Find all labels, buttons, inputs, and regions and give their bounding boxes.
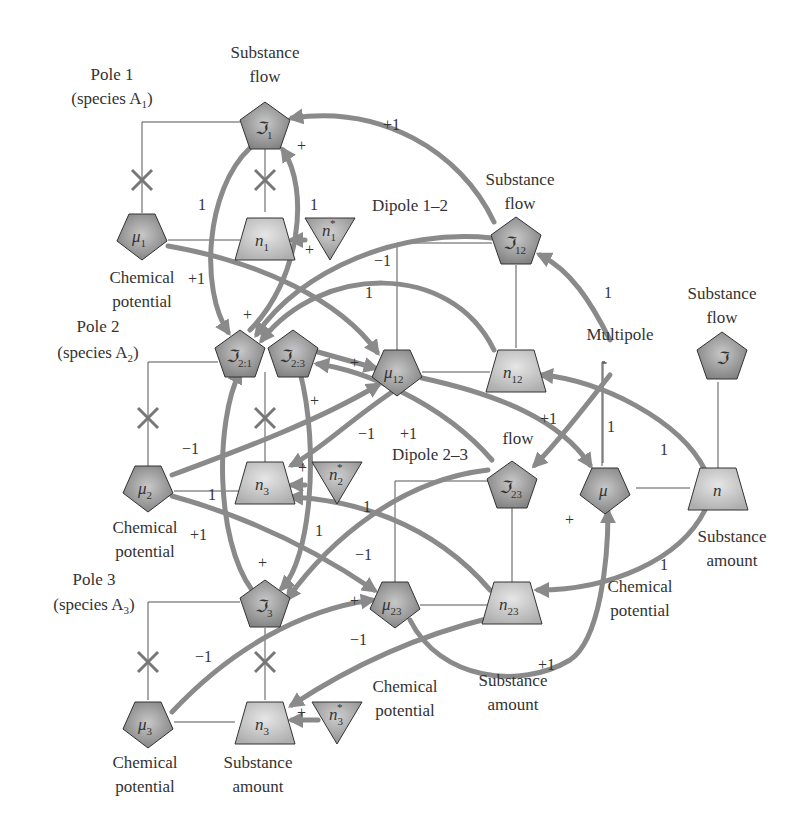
node-mu2-chemical-potential-pentagon: μ2	[123, 466, 173, 512]
node-n1-substance-amount-trapezoid: n1	[235, 218, 295, 260]
svg-text:flow: flow	[502, 429, 534, 448]
svg-text:+: +	[298, 459, 307, 476]
svg-text:−1: −1	[355, 546, 372, 563]
node-J12-substance-flow-pentagon: ℑ12	[491, 217, 541, 264]
svg-text:1: 1	[660, 441, 668, 458]
svg-text:+1: +1	[383, 116, 400, 133]
svg-text:+: +	[350, 592, 359, 609]
svg-text:Substance: Substance	[688, 284, 757, 303]
node-mu3-chemical-potential-pentagon: μ3	[123, 702, 173, 748]
svg-text:flow: flow	[249, 67, 281, 86]
svg-text:Chemical: Chemical	[109, 268, 174, 287]
node-mu12-chemical-potential-pentagon: μ12	[372, 350, 422, 396]
svg-text:potential: potential	[610, 601, 670, 620]
svg-text:amount: amount	[707, 551, 758, 570]
svg-text:Chemical: Chemical	[607, 577, 672, 596]
svg-text:amount: amount	[233, 777, 284, 796]
svg-text:+: +	[297, 704, 306, 721]
node-J23a-substance-flow-pentagon: ℑ2:3	[268, 330, 318, 377]
svg-text:+: +	[565, 511, 574, 528]
svg-text:+1: +1	[190, 526, 207, 543]
label-pole1: Pole 1	[91, 65, 134, 84]
network-diagram: ℑ1 μ1 n1 n1* ℑ12 μ12 n12	[0, 0, 810, 834]
node-mu-multipole-chemical-potential-pentagon: μ	[580, 468, 630, 514]
svg-text:potential: potential	[115, 542, 175, 561]
svg-text:1: 1	[198, 196, 206, 213]
label-pole2: Pole 2	[77, 317, 120, 336]
svg-text:−1: −1	[374, 252, 391, 269]
node-n12-substance-amount-trapezoid: n12	[486, 350, 546, 392]
svg-text:1: 1	[365, 284, 373, 301]
label-multipole: Multipole	[586, 325, 653, 344]
svg-text:Chemical: Chemical	[112, 518, 177, 537]
svg-text:−1: −1	[182, 440, 199, 457]
svg-text:Substance: Substance	[231, 43, 300, 62]
svg-text:Chemical: Chemical	[112, 753, 177, 772]
svg-text:Chemical: Chemical	[372, 677, 437, 696]
svg-text:+: +	[243, 306, 252, 323]
svg-text:+: +	[297, 137, 306, 154]
svg-text:+: +	[305, 241, 314, 258]
label-pole1-species: (species A1)	[71, 89, 153, 110]
svg-text:1: 1	[208, 486, 216, 503]
node-mu1-chemical-potential-pentagon: μ1	[117, 214, 167, 260]
svg-text:−1: −1	[358, 425, 375, 442]
svg-text:+: +	[310, 392, 319, 409]
svg-text:amount: amount	[488, 695, 539, 714]
svg-text:1: 1	[604, 284, 612, 301]
node-n3star-triangle: n3*	[312, 701, 362, 744]
svg-text:potential: potential	[115, 777, 175, 796]
svg-text:−1: −1	[195, 648, 212, 665]
svg-text:n: n	[713, 481, 722, 500]
svg-text:+1: +1	[538, 656, 555, 673]
svg-text:Substance: Substance	[479, 671, 548, 690]
svg-text:1: 1	[363, 498, 371, 515]
svg-text:potential: potential	[375, 701, 435, 720]
svg-text:+: +	[258, 554, 267, 571]
label-pole2-species: (species A2)	[57, 343, 139, 364]
node-J-multipole-substance-flow-pentagon: ℑ	[697, 332, 747, 379]
node-J23-substance-flow-pentagon: ℑ23	[487, 461, 537, 508]
svg-text:1: 1	[607, 418, 615, 435]
label-pole3-species: (species A3)	[53, 595, 135, 616]
svg-text:Substance: Substance	[486, 170, 555, 189]
svg-text:potential: potential	[112, 292, 172, 311]
node-J1-substance-flow-pentagon: ℑ1	[240, 102, 290, 149]
svg-text:flow: flow	[706, 308, 738, 327]
node-n3-pole2-substance-amount-trapezoid: n3	[235, 462, 295, 504]
node-J21-substance-flow-pentagon: ℑ2:1	[215, 330, 265, 377]
label-pole3: Pole 3	[73, 570, 116, 589]
node-n-multipole-substance-amount-trapezoid: n	[688, 468, 748, 510]
svg-text:1: 1	[310, 196, 318, 213]
svg-text:1: 1	[660, 556, 668, 573]
node-n3-substance-amount-trapezoid: n3	[235, 702, 295, 744]
svg-text:1: 1	[315, 522, 323, 539]
svg-text:flow: flow	[504, 194, 536, 213]
svg-text:−1: −1	[350, 631, 367, 648]
label-dipole23: Dipole 2–3	[392, 445, 468, 464]
svg-text:+1: +1	[188, 270, 205, 287]
svg-text:+1: +1	[540, 410, 557, 427]
label-dipole12: Dipole 1–2	[372, 196, 448, 215]
svg-text:Substance: Substance	[224, 753, 293, 772]
svg-text:+1: +1	[400, 425, 417, 442]
svg-text:Substance: Substance	[698, 527, 767, 546]
svg-text:+: +	[350, 354, 359, 371]
svg-text:μ: μ	[598, 481, 608, 500]
